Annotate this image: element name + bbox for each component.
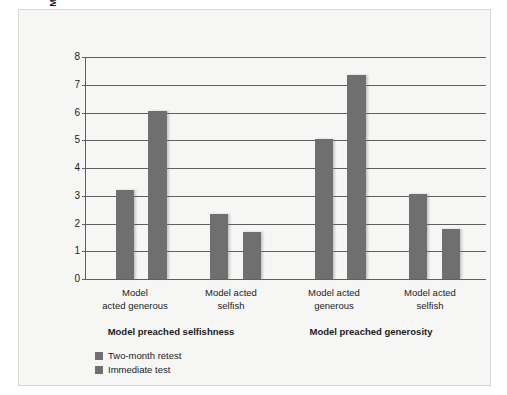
ytick-label-5: 5: [74, 135, 80, 145]
gridline-4: 4: [86, 168, 486, 169]
chart-figure: Mean number of tokens donated 8 7 6 5 4 …: [18, 9, 491, 386]
ytick-label-1: 1: [74, 246, 80, 256]
xaxis-category-label-0: Model acted generous: [85, 287, 185, 312]
ytick-label-3: 3: [74, 191, 80, 201]
ytick-mark-7: [82, 85, 86, 86]
ytick-mark-1: [82, 251, 86, 252]
ytick-mark-5: [82, 140, 86, 141]
bar-g1-generous-retest: [315, 139, 333, 279]
ytick-label-7: 7: [74, 80, 80, 90]
bar-g1-selfish-immediate: [442, 229, 460, 279]
legend-swatch-icon-immediate-test: [95, 366, 103, 374]
ytick-label-8: 8: [74, 52, 80, 62]
bar-g0-generous-retest: [116, 190, 134, 279]
gridline-8: 8: [86, 57, 486, 58]
legend-item-two-month-retest: Two-month retest: [95, 350, 181, 362]
y-axis-title: Mean number of tokens donated: [47, 0, 61, 50]
bar-g0-selfish-immediate: [243, 232, 261, 279]
chart-legend: Two-month retest Immediate test: [95, 350, 181, 378]
ytick-mark-0: [82, 279, 86, 280]
ytick-mark-6: [82, 113, 86, 114]
legend-item-immediate-test: Immediate test: [95, 364, 181, 376]
xaxis-group-label-0: Model preached selfishness: [81, 326, 261, 337]
xaxis-group-label-1: Model preached generosity: [281, 326, 461, 337]
xaxis-category-label-1: Model acted selfish: [181, 287, 281, 312]
gridline-7: 7: [86, 85, 486, 86]
legend-label-immediate-test: Immediate test: [108, 365, 170, 375]
legend-swatch-icon-two-month-retest: [95, 352, 103, 360]
xaxis-category-label-3: Model acted selfish: [380, 287, 480, 312]
gridline-0: 0: [86, 279, 486, 280]
bar-g1-generous-immediate: [347, 75, 366, 279]
ytick-mark-4: [82, 168, 86, 169]
bar-g1-selfish-retest: [409, 194, 427, 279]
bar-g0-selfish-retest: [210, 214, 228, 279]
plot-area: 8 7 6 5 4 3 2 1: [85, 57, 486, 280]
ytick-mark-8: [82, 57, 86, 58]
gridline-6: 6: [86, 113, 486, 114]
xaxis-category-label-2: Model acted generous: [284, 287, 384, 312]
ytick-mark-2: [82, 224, 86, 225]
ytick-label-6: 6: [74, 108, 80, 118]
ytick-label-2: 2: [74, 219, 80, 229]
legend-label-two-month-retest: Two-month retest: [108, 351, 181, 361]
ytick-label-0: 0: [74, 274, 80, 284]
ytick-mark-3: [82, 196, 86, 197]
bar-g0-generous-immediate: [148, 111, 167, 279]
ytick-label-4: 4: [74, 163, 80, 173]
gridline-5: 5: [86, 140, 486, 141]
